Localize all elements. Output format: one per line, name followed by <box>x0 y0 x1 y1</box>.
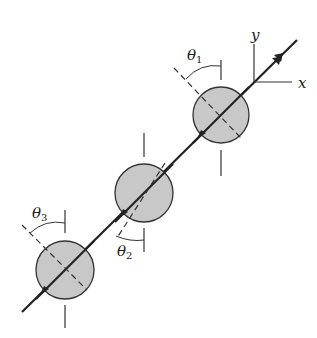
disk-3: θ3 <box>22 204 94 328</box>
x-axis-label: x <box>298 74 307 92</box>
y-axis-label: y <box>250 26 260 44</box>
theta-3-label: θ3 <box>32 204 47 223</box>
theta-1-label: θ1 <box>187 46 202 65</box>
angle-arc-3 <box>30 222 65 233</box>
disk-2: θ2 <box>115 133 173 261</box>
three-disk-diagram: y x θ1 θ2 <box>0 0 317 338</box>
angle-arc-1 <box>186 66 221 79</box>
angle-arc-2 <box>116 236 144 241</box>
theta-2-label: θ2 <box>117 242 132 261</box>
disk-1: θ1 <box>174 46 249 176</box>
